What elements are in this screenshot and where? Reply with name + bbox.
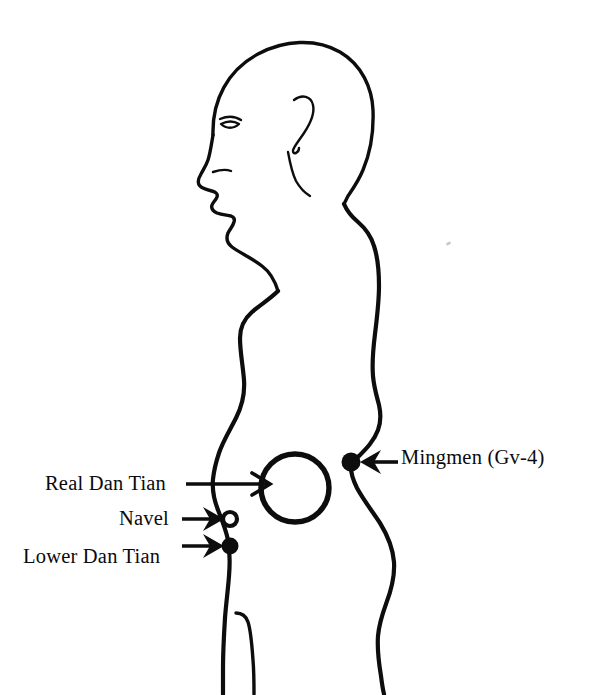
front-torso-outline bbox=[213, 291, 278, 618]
ear-feature bbox=[293, 97, 313, 154]
lower-back-outline bbox=[351, 462, 394, 694]
eye-feature bbox=[221, 122, 239, 128]
figure-illustration bbox=[0, 0, 591, 695]
label-lower-dan-tian: Lower Dan Tian bbox=[23, 546, 160, 567]
lower-dan-tian-point-marker bbox=[222, 538, 239, 555]
groin-crease-line bbox=[236, 613, 254, 694]
back-torso-outline bbox=[344, 204, 380, 462]
face-profile-outline bbox=[198, 135, 278, 291]
navel-point-marker bbox=[223, 512, 237, 526]
label-mingmen: Mingmen (Gv-4) bbox=[401, 447, 544, 468]
label-navel: Navel bbox=[119, 508, 169, 529]
eyebrow-feature bbox=[220, 117, 241, 120]
real-dan-tian-circle-marker bbox=[261, 454, 329, 522]
mingmen-point-marker bbox=[342, 453, 361, 472]
front-thigh-outline bbox=[223, 618, 225, 694]
anatomy-diagram: Real Dan Tian Navel Lower Dan Tian Mingm… bbox=[0, 0, 591, 695]
label-real-dan-tian: Real Dan Tian bbox=[45, 473, 166, 494]
jawline-feature bbox=[288, 152, 310, 196]
lips-feature bbox=[213, 170, 231, 172]
